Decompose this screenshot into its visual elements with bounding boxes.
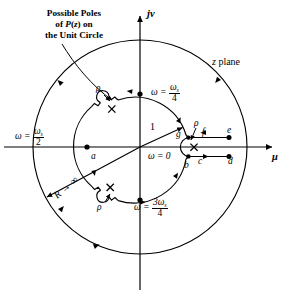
pole-cross-lower-left [107, 184, 114, 191]
omega-three-quarter-prefix: ω = [134, 202, 150, 212]
frequency-label-omega-zero: ω = 0 [148, 152, 171, 162]
point-label-d: d [228, 157, 233, 167]
outer-circle-direction-arrows [56, 77, 221, 249]
point-label-g: g [176, 130, 181, 140]
pole-markers [107, 105, 198, 191]
rho-label-upper: ρ [96, 84, 101, 94]
z-plane-contour-figure [0, 0, 288, 298]
real-axis-detour-segments [188, 130, 229, 159]
rho-leader-unit-point [191, 128, 196, 140]
annotation-line-1: Possible Poles [26, 8, 122, 19]
imaginary-axis-label: jν [147, 9, 155, 20]
frequency-label-omega-quarter: ω = ωs 4 [151, 83, 180, 103]
frequency-label-omega-three-quarter: ω = 3ωs 4 [134, 198, 168, 218]
pole-cross-upper-left [108, 105, 115, 112]
possible-poles-annotation: Possible Poles of P(z) on the Unit Circl… [26, 8, 122, 41]
annotation-line-2: of P(z) on [26, 19, 122, 30]
annotation-leader-line [62, 44, 112, 100]
omega-quarter-prefix: ω = [151, 87, 167, 97]
plane-label: z plane [212, 57, 240, 67]
omega-three-quarter-denominator: 4 [152, 209, 168, 219]
point-label-b: b [184, 161, 189, 171]
point-label-f: f [202, 128, 205, 138]
annotation-line-3: the Unit Circle [26, 30, 122, 41]
point-dot-g [186, 135, 190, 139]
omega-half-prefix: ω = [15, 131, 31, 141]
marker-omega-half [84, 144, 89, 149]
rho-label-lower: ρ [97, 203, 102, 213]
point-label-a: a [91, 152, 96, 162]
point-label-e: e [227, 126, 231, 136]
point-dot-b [186, 154, 190, 158]
real-axis-label: μ [272, 152, 278, 163]
point-dot-e [227, 135, 232, 140]
omega-quarter-denominator: 4 [169, 94, 180, 104]
frequency-label-omega-half: ω = ωs 2 [15, 127, 44, 147]
rho-leader-lines [104, 95, 196, 202]
unit-radius-label: 1 [150, 122, 155, 132]
marker-omega-quarter [137, 91, 142, 96]
rho-label-unit-point: ρ [194, 119, 199, 129]
omega-half-denominator: 2 [33, 138, 44, 148]
point-label-c: c [198, 157, 202, 167]
